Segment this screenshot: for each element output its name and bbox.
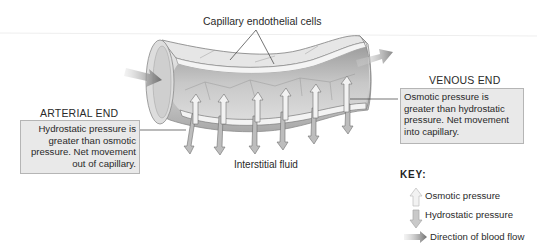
arterial-end-heading: ARTERIAL END (40, 107, 118, 119)
arterial-line-1: Hydrostatic pressure is (24, 123, 136, 135)
venous-line-2: greater than hydrostatic (404, 103, 520, 115)
venous-end-heading: VENOUS END (429, 74, 500, 86)
arterial-end-description: Hydrostatic pressure is greater than osm… (20, 120, 140, 174)
arterial-line-4: out of capillary. (24, 158, 136, 170)
key-item-blood-flow: Direction of blood flow (430, 231, 524, 242)
arterial-line-3: pressure. Net movement (24, 146, 136, 158)
endothelial-cells-label: Capillary endothelial cells (203, 15, 321, 27)
key-flow-icon (404, 231, 427, 243)
venous-line-1: Osmotic pressure is (404, 91, 520, 103)
key-osmotic-icon (410, 188, 422, 206)
key-hydrostatic-icon (410, 210, 422, 228)
interstitial-fluid-label: Interstitial fluid (234, 159, 298, 170)
key-item-osmotic: Osmotic pressure (425, 190, 500, 201)
key-item-hydrostatic: Hydrostatic pressure (425, 209, 513, 220)
key-title: KEY: (400, 169, 426, 180)
arterial-line-2: greater than osmotic (24, 135, 136, 147)
venous-line-4: into capillary. (404, 126, 520, 138)
venous-end-description: Osmotic pressure is greater than hydrost… (400, 88, 524, 144)
venous-line-3: pressure. Net movement (404, 114, 520, 126)
